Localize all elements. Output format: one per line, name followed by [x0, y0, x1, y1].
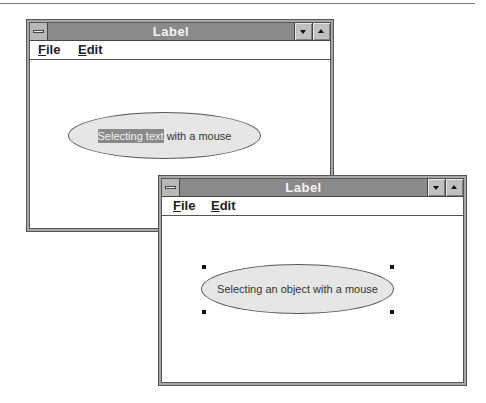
unselected-text[interactable]: with a mouse	[164, 130, 232, 142]
minimize-button[interactable]	[294, 23, 312, 40]
system-menu-icon	[165, 186, 176, 189]
menu-edit[interactable]: Edit	[78, 42, 103, 58]
menu-file-label: ile	[181, 198, 195, 213]
menu-edit[interactable]: Edit	[211, 198, 236, 214]
menu-file[interactable]: File	[173, 198, 195, 214]
menu-file-label: ile	[46, 42, 60, 57]
system-menu-icon	[33, 30, 44, 33]
label-ellipse-selected[interactable]: Selecting an object with a mouse	[201, 264, 394, 314]
title-bar[interactable]: Label	[30, 23, 330, 41]
selection-handle-bottom-right[interactable]	[390, 310, 394, 314]
minimize-arrow-icon	[300, 30, 306, 34]
menu-bar: File Edit	[30, 41, 330, 60]
window-title: Label	[180, 179, 427, 196]
maximize-arrow-icon	[451, 185, 457, 189]
menu-edit-label: dit	[220, 198, 236, 213]
label-ellipse[interactable]: Selecting text with a mouse	[68, 112, 261, 159]
title-bar[interactable]: Label	[162, 179, 463, 197]
label-window-object-selection: Label File Edit Selecting an object with…	[158, 175, 467, 386]
system-menu-button[interactable]	[30, 23, 48, 40]
client-area: Selecting an object with a mouse	[162, 216, 463, 382]
menu-edit-accelerator: E	[211, 198, 220, 213]
selected-text[interactable]: Selecting text	[98, 129, 164, 143]
menu-file[interactable]: File	[38, 42, 60, 58]
maximize-button[interactable]	[445, 179, 463, 196]
selection-handle-bottom-left[interactable]	[202, 310, 206, 314]
maximize-button[interactable]	[312, 23, 330, 40]
menu-edit-accelerator: E	[78, 42, 87, 57]
minimize-arrow-icon	[433, 186, 439, 190]
menu-bar: File Edit	[162, 197, 463, 216]
maximize-arrow-icon	[318, 29, 324, 33]
selection-handle-top-left[interactable]	[202, 265, 206, 269]
system-menu-button[interactable]	[162, 179, 180, 196]
menu-edit-label: dit	[87, 42, 103, 57]
selection-handle-top-right[interactable]	[390, 265, 394, 269]
minimize-button[interactable]	[427, 179, 445, 196]
window-title: Label	[48, 23, 294, 40]
page-top-rule	[0, 3, 475, 4]
label-text: Selecting an object with a mouse	[217, 283, 378, 295]
menu-file-accelerator: F	[173, 198, 181, 213]
menu-file-accelerator: F	[38, 42, 46, 57]
